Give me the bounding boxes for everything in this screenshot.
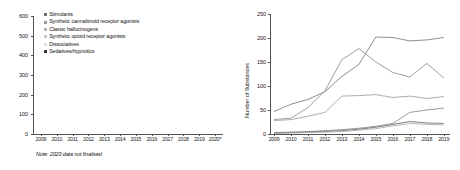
y-tick-label: 500 xyxy=(8,33,28,39)
y-tick-label: 250 xyxy=(246,11,266,17)
x-tick xyxy=(88,134,89,136)
x-tick xyxy=(168,134,169,136)
x-tick xyxy=(359,134,360,136)
x-axis-line xyxy=(33,134,223,135)
legend-label: Synthetic opioid receptor agonists xyxy=(49,33,125,40)
x-tick xyxy=(104,134,105,136)
legend-item[interactable]: Dissociatives xyxy=(44,41,139,48)
x-tick xyxy=(215,134,216,136)
x-tick xyxy=(199,134,200,136)
y-axis-line xyxy=(33,16,34,134)
x-tick xyxy=(152,134,153,136)
line-series xyxy=(274,49,444,120)
y-tick-label: 300 xyxy=(8,72,28,78)
x-tick-label: 2020* xyxy=(204,136,226,142)
line-chart-panel: 050100150200250 Number of Substances 200… xyxy=(230,0,460,170)
x-tick xyxy=(136,134,137,136)
legend-label: Stimulants xyxy=(49,11,73,18)
y-tick-label: 100 xyxy=(8,111,28,117)
x-tick xyxy=(393,134,394,136)
legend-swatch-icon xyxy=(44,13,47,16)
x-tick xyxy=(183,134,184,136)
legend-label: Sedatives/hypnotics xyxy=(49,48,94,55)
x-tick xyxy=(291,134,292,136)
x-tick xyxy=(73,134,74,136)
legend-swatch-icon xyxy=(44,50,47,53)
x-tick xyxy=(444,134,445,136)
legend-swatch-icon xyxy=(44,43,47,46)
legend-label: Classic hallucinogens xyxy=(49,26,98,33)
x-tick-label: 2019 xyxy=(433,136,455,142)
stacked-bar-chart-panel: 0100200300400500600 20092010201120122013… xyxy=(0,0,230,170)
y-tick-label: 200 xyxy=(246,35,266,41)
legend-item[interactable]: Synthetic opioid receptor agonists xyxy=(44,33,139,40)
x-tick xyxy=(376,134,377,136)
x-tick xyxy=(427,134,428,136)
legend-item[interactable]: Synthetic cannabinoid receptor agonists xyxy=(44,18,139,25)
y-tick-label: 400 xyxy=(8,52,28,58)
figure-root: 0100200300400500600 20092010201120122013… xyxy=(0,0,460,170)
x-axis-line xyxy=(270,134,450,135)
chart-note: Note: 2020 data not finalised xyxy=(36,151,102,157)
line-series xyxy=(274,95,444,121)
x-tick xyxy=(342,134,343,136)
y-tick-label: 200 xyxy=(8,92,28,98)
legend-swatch-icon xyxy=(44,28,47,31)
x-tick xyxy=(41,134,42,136)
x-tick xyxy=(120,134,121,136)
legend-item[interactable]: Stimulants xyxy=(44,11,139,18)
y-tick-label: 0 xyxy=(8,131,28,137)
x-tick xyxy=(308,134,309,136)
y-axis-line xyxy=(270,14,271,134)
x-tick xyxy=(410,134,411,136)
legend: StimulantsSynthetic cannabinoid receptor… xyxy=(44,11,139,55)
right-y-axis-title: Number of Substances xyxy=(244,63,250,118)
x-tick xyxy=(325,134,326,136)
x-tick xyxy=(274,134,275,136)
legend-label: Synthetic cannabinoid receptor agonists xyxy=(49,18,139,25)
legend-label: Dissociatives xyxy=(49,41,79,48)
y-tick-label: 600 xyxy=(8,13,28,19)
x-tick xyxy=(57,134,58,136)
legend-item[interactable]: Sedatives/hypnotics xyxy=(44,48,139,55)
legend-item[interactable]: Classic hallucinogens xyxy=(44,26,139,33)
legend-swatch-icon xyxy=(44,21,47,24)
legend-swatch-icon xyxy=(44,35,47,38)
line-series xyxy=(274,122,444,134)
